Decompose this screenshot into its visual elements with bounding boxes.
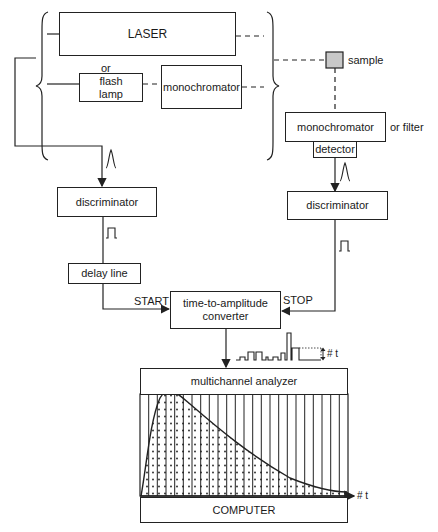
sample-label: sample xyxy=(348,54,383,66)
computer-box: COMPUTER xyxy=(140,497,348,523)
right-discriminator-box: discriminator xyxy=(287,191,388,220)
left-discriminator-box: discriminator xyxy=(57,187,157,217)
sample-square xyxy=(326,52,343,68)
tac-box: time-to-amplitude converter xyxy=(170,291,281,329)
detector-box: detector xyxy=(313,141,357,158)
mca-box: multichannel analyzer xyxy=(140,368,348,395)
laser-box: LASER xyxy=(59,12,236,56)
right-brace xyxy=(267,12,279,160)
pulse-height-label: # t xyxy=(327,348,338,360)
time-axis-label: # t xyxy=(357,490,368,502)
or-filter-label: or filter xyxy=(390,121,424,133)
emission-monochromator-box: monochromator xyxy=(285,112,386,142)
excitation-monochromator-box: monochromator xyxy=(161,65,242,109)
delay-line-box: delay line xyxy=(68,263,141,284)
stop-label: STOP xyxy=(283,294,313,306)
left-brace xyxy=(36,12,48,160)
start-label: START xyxy=(134,295,169,307)
flash-lamp-box: flash lamp xyxy=(79,73,143,102)
